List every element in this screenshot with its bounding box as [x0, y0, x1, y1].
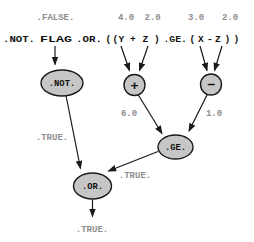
result-labels: .TRUE. 6.0 1.0 .TRUE. .TRUE.	[36, 109, 222, 235]
expression-token-plus: +	[130, 34, 136, 45]
operand-values-row: .FALSE. 4.0 2.0 3.0 2.0	[37, 13, 239, 23]
expression-token-y: Y	[119, 34, 125, 45]
expression-token-ge: .GE.	[164, 34, 188, 45]
operand-arrows	[55, 46, 222, 71]
minus-node: −	[201, 74, 222, 95]
flag-value-label: .FALSE.	[37, 13, 75, 23]
arrow-not-to-or-node	[66, 96, 81, 169]
expression-token-rparen-2: )	[225, 34, 231, 45]
expression-token-minus: -	[207, 34, 213, 45]
diagram-svg: .FALSE. 4.0 2.0 3.0 2.0 .NOT. FLAG .OR. …	[0, 0, 254, 242]
minus-node-label: −	[207, 78, 215, 93]
expression-token-not: .NOT.	[3, 34, 35, 45]
expression-token-rparen-3: )	[234, 34, 240, 45]
expression-token-lparen-1: (	[106, 34, 112, 45]
arrow-z-to-minus-node	[215, 46, 223, 71]
x-value-label: 3.0	[188, 13, 204, 23]
expression-token-lparen-3: (	[190, 34, 196, 45]
not-result-label: .TRUE.	[36, 133, 68, 143]
minus-result-label: 1.0	[206, 109, 222, 119]
z1-value-label: 2.0	[144, 13, 160, 23]
final-result-label: .TRUE.	[76, 225, 108, 235]
expression-token-z1: Z	[143, 34, 149, 45]
arrow-plus-to-ge-node	[138, 95, 162, 134]
arrow-z-to-plus-node	[140, 46, 149, 71]
arrow-ge-to-or-node	[109, 152, 159, 172]
z2-value-label: 2.0	[222, 13, 238, 23]
ge-node: .GE.	[158, 135, 193, 159]
ge-result-label: .TRUE.	[119, 171, 151, 181]
plus-node: +	[124, 75, 145, 96]
ge-node-label: .GE.	[165, 143, 186, 153]
not-node-label: .NOT.	[49, 79, 75, 89]
plus-result-label: 6.0	[121, 109, 137, 119]
y-value-label: 4.0	[118, 13, 134, 23]
expression-token-or: .OR.	[76, 34, 102, 45]
expression-token-rparen-1: )	[154, 34, 160, 45]
arrow-y-to-plus-node	[121, 46, 130, 71]
expression-evaluation-diagram: .FALSE. 4.0 2.0 3.0 2.0 .NOT. FLAG .OR. …	[0, 0, 254, 242]
expression-token-x: X	[198, 34, 204, 45]
not-node: .NOT.	[41, 70, 83, 96]
or-node: .OR.	[74, 173, 112, 199]
expression-token-flag: FLAG	[40, 34, 72, 45]
expression-token-z2: Z	[215, 34, 221, 45]
arrow-minus-to-ge-node	[189, 94, 208, 131]
expression-token-lparen-2: (	[113, 34, 119, 45]
or-node-label: .OR.	[82, 182, 103, 192]
plus-node-label: +	[130, 79, 138, 94]
arrow-x-to-minus-node	[200, 46, 207, 71]
expression-line: .NOT. FLAG .OR. ( ( Y + Z ) .GE. ( X - Z…	[3, 34, 239, 45]
